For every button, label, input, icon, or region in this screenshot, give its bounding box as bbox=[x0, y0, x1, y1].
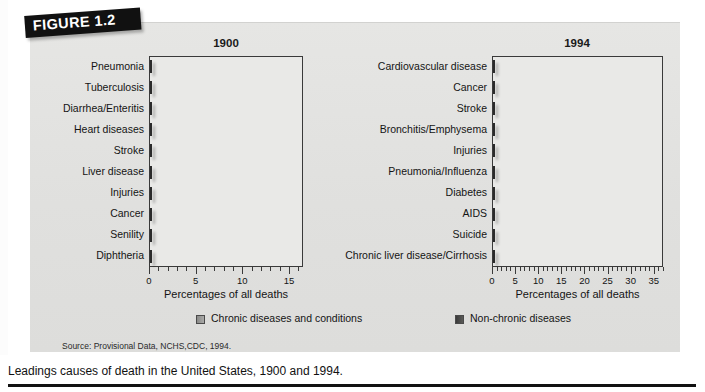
bar-Diarrhea/Enteritis bbox=[150, 102, 232, 115]
bar-fill bbox=[493, 208, 495, 221]
bar-fill bbox=[493, 250, 495, 263]
x-tick-minor bbox=[658, 267, 659, 271]
x-tick-minor bbox=[649, 267, 650, 271]
bar-fill bbox=[493, 60, 495, 73]
bar-fill bbox=[150, 102, 152, 115]
x-tick-minor bbox=[506, 267, 507, 271]
category-label: Cancer bbox=[0, 207, 144, 219]
x-tick-minor bbox=[635, 267, 636, 271]
bar-fill bbox=[150, 123, 152, 136]
x-tick-minor bbox=[645, 267, 646, 271]
bar-Senility bbox=[150, 229, 185, 242]
x-tick-minor bbox=[571, 267, 572, 271]
legend-label-chronic: Chronic diseases and conditions bbox=[211, 312, 362, 324]
category-label: Stroke bbox=[229, 102, 487, 114]
chart-title: 1900 bbox=[186, 37, 266, 49]
x-tick-label: 30 bbox=[619, 275, 643, 286]
x-tick-minor bbox=[594, 267, 595, 271]
bar-Suicide bbox=[493, 229, 499, 242]
x-tick-major bbox=[631, 267, 632, 274]
x-tick-minor bbox=[497, 267, 498, 271]
x-tick-minor bbox=[261, 267, 262, 271]
bar-Stroke bbox=[150, 144, 208, 157]
x-tick-minor bbox=[520, 267, 521, 271]
bar-fill bbox=[150, 208, 152, 221]
x-axis-title: Percentages of all deaths bbox=[136, 288, 316, 300]
category-label: Diarrhea/Enteritis bbox=[0, 102, 144, 114]
page-right-edge bbox=[696, 0, 705, 392]
bar-fill bbox=[493, 166, 495, 179]
bar-fill bbox=[493, 81, 495, 94]
x-tick-minor bbox=[603, 267, 604, 271]
x-tick-minor bbox=[621, 267, 622, 271]
bar-fill bbox=[150, 229, 152, 242]
x-tick-minor bbox=[640, 267, 641, 271]
category-label: Tuberculosis bbox=[0, 81, 144, 93]
x-tick-major bbox=[608, 267, 609, 274]
category-label: Pneumonia/Influenza bbox=[229, 165, 487, 177]
x-tick-minor bbox=[626, 267, 627, 271]
page-spine bbox=[0, 0, 8, 355]
bar-fill bbox=[150, 144, 152, 157]
x-tick-label: 0 bbox=[480, 275, 504, 286]
bar-fill bbox=[150, 166, 152, 179]
bar-fill bbox=[493, 102, 495, 115]
x-tick-minor bbox=[663, 267, 664, 271]
x-tick-minor bbox=[510, 267, 511, 271]
bar-fill bbox=[150, 60, 152, 73]
bar-fill bbox=[150, 187, 152, 200]
x-tick-minor bbox=[580, 267, 581, 271]
x-tick-minor bbox=[575, 267, 576, 271]
bar-AIDS bbox=[493, 208, 501, 221]
bar-fill bbox=[493, 144, 495, 157]
x-tick-label: 20 bbox=[572, 275, 596, 286]
category-label: Suicide bbox=[229, 228, 487, 240]
category-label: AIDS bbox=[229, 207, 487, 219]
category-label: Diabetes bbox=[229, 186, 487, 198]
x-tick-minor bbox=[589, 267, 590, 271]
bar-fill bbox=[493, 229, 495, 242]
x-tick-minor bbox=[298, 267, 299, 271]
figure-banner-label: FIGURE 1.2 bbox=[32, 11, 116, 33]
category-label: Bronchitis/Emphysema bbox=[229, 123, 487, 135]
bar-Cancer bbox=[150, 208, 190, 221]
category-label: Stroke bbox=[0, 144, 144, 156]
x-tick-minor bbox=[168, 267, 169, 271]
bar-Cardiovascular disease bbox=[493, 60, 641, 73]
x-tick-minor bbox=[534, 267, 535, 271]
x-tick-label: 5 bbox=[503, 275, 527, 286]
bar-Bronchitis/Emphysema bbox=[493, 123, 513, 136]
x-tick-minor bbox=[524, 267, 525, 271]
x-tick-minor bbox=[501, 267, 502, 271]
x-tick-label: 15 bbox=[549, 275, 573, 286]
bar-Heart diseases bbox=[150, 123, 229, 136]
caption-rule bbox=[8, 384, 696, 387]
bar-fill bbox=[150, 81, 152, 94]
bar-Pneumonia/Influenza bbox=[493, 166, 511, 179]
category-label: Chronic liver disease/Cirrhosis bbox=[229, 249, 487, 261]
x-tick-label: 15 bbox=[277, 275, 301, 286]
x-tick-label: 25 bbox=[596, 275, 620, 286]
bar-Cancer bbox=[493, 81, 602, 94]
x-tick-minor bbox=[557, 267, 558, 271]
x-tick-major bbox=[196, 267, 197, 274]
x-tick-minor bbox=[252, 267, 253, 271]
x-tick-major bbox=[289, 267, 290, 274]
category-label: Senility bbox=[0, 228, 144, 240]
figure-caption: Leadings causes of death in the United S… bbox=[8, 364, 343, 378]
category-label: Diphtheria bbox=[0, 249, 144, 261]
category-label: Injuries bbox=[229, 144, 487, 156]
x-tick-label: 10 bbox=[230, 275, 254, 286]
legend-swatch-nonchronic bbox=[455, 315, 464, 324]
x-tick-minor bbox=[214, 267, 215, 271]
bar-Injuries bbox=[493, 144, 512, 157]
x-tick-major bbox=[242, 267, 243, 274]
chart-title: 1994 bbox=[537, 37, 617, 49]
x-tick-minor bbox=[186, 267, 187, 271]
x-tick-minor bbox=[177, 267, 178, 271]
x-tick-label: 10 bbox=[526, 275, 550, 286]
x-tick-major bbox=[149, 267, 150, 274]
x-tick-minor bbox=[280, 267, 281, 271]
x-tick-major bbox=[654, 267, 655, 274]
bar-fill bbox=[493, 123, 495, 136]
